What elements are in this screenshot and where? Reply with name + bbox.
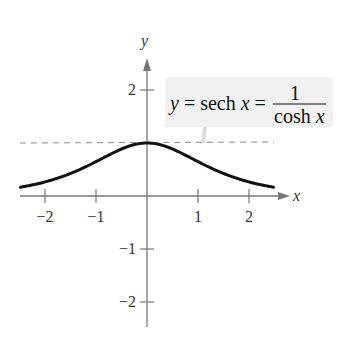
x-tick-label: 2 (245, 208, 253, 225)
y-tick-label: 2 (128, 81, 136, 98)
x-tick-label: 1 (194, 208, 202, 225)
equation-denominator: cosh x (274, 105, 325, 127)
equation-lhs: y = sech x = (168, 92, 266, 115)
y-axis-label: y (139, 32, 149, 50)
y-axis-arrow-icon (143, 58, 151, 71)
sech-plot: −2−112 2−1−2 x y y = sech x = 1 cosh x (0, 0, 346, 347)
equation-numerator: 1 (290, 82, 300, 104)
x-axis-arrow-icon (278, 192, 290, 200)
x-tick-label: −1 (87, 208, 104, 225)
y-tick-label: −1 (119, 240, 136, 257)
x-ticks: −2−112 (36, 189, 253, 225)
x-axis-label: x (292, 187, 300, 204)
y-tick-label: −2 (119, 293, 136, 310)
x-tick-label: −2 (36, 208, 53, 225)
equation-pointer (203, 127, 205, 143)
